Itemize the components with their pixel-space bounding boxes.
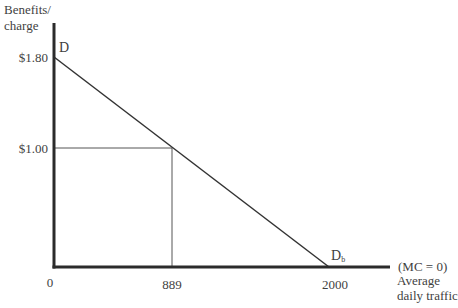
y-axis-title-line1: Benefits/ [4, 2, 51, 18]
y-tick-1-80: $1.80 [0, 50, 48, 65]
y-axis-title-line2: charge [4, 18, 51, 34]
x-axis-title-line1: Average [397, 273, 458, 288]
demand-curve [54, 57, 329, 267]
y-axis-title: Benefits/ charge [4, 2, 51, 34]
x-tick-0: 0 [25, 275, 75, 290]
curve-label-end: Db [331, 248, 345, 267]
curve-label-end-subscript: b [341, 255, 345, 264]
curve-label-end-main: D [331, 248, 341, 263]
x-axis-title: Average daily traffic [397, 273, 458, 303]
mc-annotation: (MC = 0) [398, 259, 447, 274]
x-axis-title-line2: daily traffic [397, 288, 458, 303]
y-tick-1-00: $1.00 [0, 141, 48, 156]
curve-label-start: D [59, 40, 69, 55]
x-tick-2000: 2000 [310, 277, 360, 292]
x-tick-889: 889 [147, 277, 197, 292]
